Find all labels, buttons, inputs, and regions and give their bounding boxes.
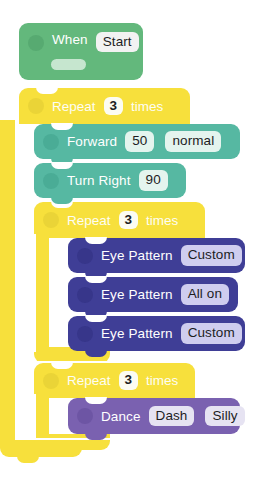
forward-label: Forward <box>67 134 117 149</box>
repeat-outer-header[interactable]: Repeat 3 times <box>19 88 190 124</box>
start-event-field[interactable]: Start <box>96 32 139 52</box>
repeat-outer-label-before: Repeat <box>52 99 96 114</box>
block-handle-dot <box>77 408 93 424</box>
block-handle-dot <box>77 248 93 264</box>
turn-right-block[interactable]: Turn Right 90 <box>34 163 186 198</box>
block-handle-dot <box>43 173 59 189</box>
eye-pattern-value-field[interactable]: All on <box>181 284 229 304</box>
eye-pattern-label: Eye Pattern <box>101 287 173 302</box>
turn-right-angle-field[interactable]: 90 <box>139 170 168 190</box>
dance-robot-field[interactable]: Dash <box>149 406 195 426</box>
block-handle-dot <box>77 287 93 303</box>
forward-speed-field[interactable]: normal <box>165 131 221 151</box>
repeat-inner-2-label-after: times <box>146 373 178 388</box>
repeat-outer-spine <box>0 120 15 445</box>
eye-pattern-value-field[interactable]: Custom <box>181 245 242 265</box>
repeat-inner-2-count-field[interactable]: 3 <box>119 371 139 389</box>
eye-pattern-block-1[interactable]: Eye Pattern Custom <box>68 238 245 273</box>
eye-pattern-value-field[interactable]: Custom <box>181 323 242 343</box>
repeat-inner-1-label-after: times <box>146 213 178 228</box>
repeat-inner-1-label-before: Repeat <box>67 213 111 228</box>
repeat-inner-1-count-field[interactable]: 3 <box>119 211 139 229</box>
eye-pattern-label: Eye Pattern <box>101 248 173 263</box>
repeat-inner-1-header[interactable]: Repeat 3 times <box>34 202 205 238</box>
repeat-outer-label-after: times <box>131 99 163 114</box>
block-handle-dot <box>43 373 59 389</box>
repeat-inner-1-spine <box>34 234 49 352</box>
block-handle-dot <box>43 134 59 150</box>
block-seam <box>19 200 190 202</box>
block-program-canvas[interactable]: Repeat 3 times Repeat 3 times Repeat 3 t… <box>0 0 261 485</box>
start-block-pill <box>51 59 86 70</box>
repeat-inner-2-spine <box>34 394 49 439</box>
dance-move-field[interactable]: Silly <box>205 406 244 426</box>
block-seam-vertical <box>34 394 36 440</box>
when-start-block[interactable]: When Start <box>19 23 143 80</box>
eye-pattern-block-3[interactable]: Eye Pattern Custom <box>68 316 245 351</box>
block-handle-dot <box>28 35 44 51</box>
dance-label: Dance <box>101 409 141 424</box>
eye-pattern-label: Eye Pattern <box>101 326 173 341</box>
turn-right-label: Turn Right <box>67 173 131 188</box>
eye-pattern-block-2[interactable]: Eye Pattern All on <box>68 277 238 312</box>
repeat-inner-2-label-before: Repeat <box>67 373 111 388</box>
when-label: When <box>52 32 88 47</box>
repeat-outer-count-field[interactable]: 3 <box>104 97 124 115</box>
forward-block[interactable]: Forward 50 normal <box>34 124 240 159</box>
block-handle-dot <box>28 98 44 114</box>
block-handle-dot <box>77 326 93 342</box>
dance-block[interactable]: Dance Dash Silly <box>68 398 240 434</box>
block-seam <box>19 361 180 363</box>
forward-distance-field[interactable]: 50 <box>125 131 154 151</box>
block-handle-dot <box>43 212 59 228</box>
block-seam-vertical <box>34 234 36 352</box>
repeat-inner-2-header[interactable]: Repeat 3 times <box>34 363 195 398</box>
